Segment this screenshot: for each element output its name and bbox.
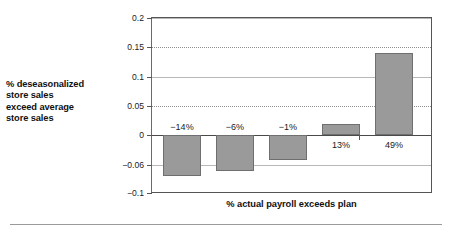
y-tick-mark-0.1 xyxy=(147,77,152,78)
y-tick-label-0.1: 0.1 xyxy=(132,72,144,82)
bottom-divider xyxy=(10,224,442,225)
y-axis-title-line-1: % deseasonalized xyxy=(6,79,118,90)
bar-label-4: 13% xyxy=(317,140,365,150)
bar-5[interactable] xyxy=(375,53,413,135)
bar-1[interactable] xyxy=(163,135,201,176)
y-tick-mark-0.2 xyxy=(147,18,152,19)
bar-2[interactable] xyxy=(216,135,254,171)
y-axis-title-line-2: store sales xyxy=(6,90,118,101)
y-tick-mark-0.05 xyxy=(147,106,152,107)
bar-chart-figure: % deseasonalized store sales exceed aver… xyxy=(0,0,452,237)
plot-area: 0.2 0.15 0.1 0.05 0 −0.06 −0.1 −14% xyxy=(151,17,432,193)
bar-4[interactable] xyxy=(322,124,360,135)
y-tick-label-0: 0 xyxy=(139,130,144,140)
y-tick-mark-0 xyxy=(147,135,152,136)
bar-label-3: −1% xyxy=(264,122,312,132)
y-tick-label-0.15: 0.15 xyxy=(127,42,144,52)
bar-label-5: 49% xyxy=(370,140,418,150)
x-axis-title: % actual payroll exceeds plan xyxy=(151,199,432,209)
gridline-0.15 xyxy=(152,47,431,48)
y-tick-label-0.05: 0.05 xyxy=(127,101,144,111)
gridline-0.2 xyxy=(152,18,431,19)
y-tick-mark-minus-0.1 xyxy=(147,193,152,194)
y-tick-label-minus-0.06: −0.06 xyxy=(122,160,144,170)
y-tick-label-0.2: 0.2 xyxy=(132,13,144,23)
bar-3[interactable] xyxy=(269,135,307,160)
y-axis-title-line-4: store sales xyxy=(6,113,118,124)
y-tick-mark-minus-0.06 xyxy=(147,165,152,166)
y-axis-title: % deseasonalized store sales exceed aver… xyxy=(6,79,118,125)
y-tick-label-minus-0.1: −0.1 xyxy=(127,188,144,198)
bar-label-1: −14% xyxy=(158,122,206,132)
bar-label-2: −6% xyxy=(211,122,259,132)
y-axis-title-line-3: exceed average xyxy=(6,102,118,113)
y-tick-mark-0.15 xyxy=(147,47,152,48)
